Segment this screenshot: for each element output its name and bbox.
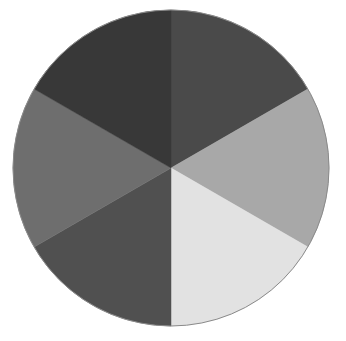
figure-canvas xyxy=(0,0,346,341)
disc-svg xyxy=(0,0,346,341)
pie-segments-group xyxy=(13,10,329,326)
